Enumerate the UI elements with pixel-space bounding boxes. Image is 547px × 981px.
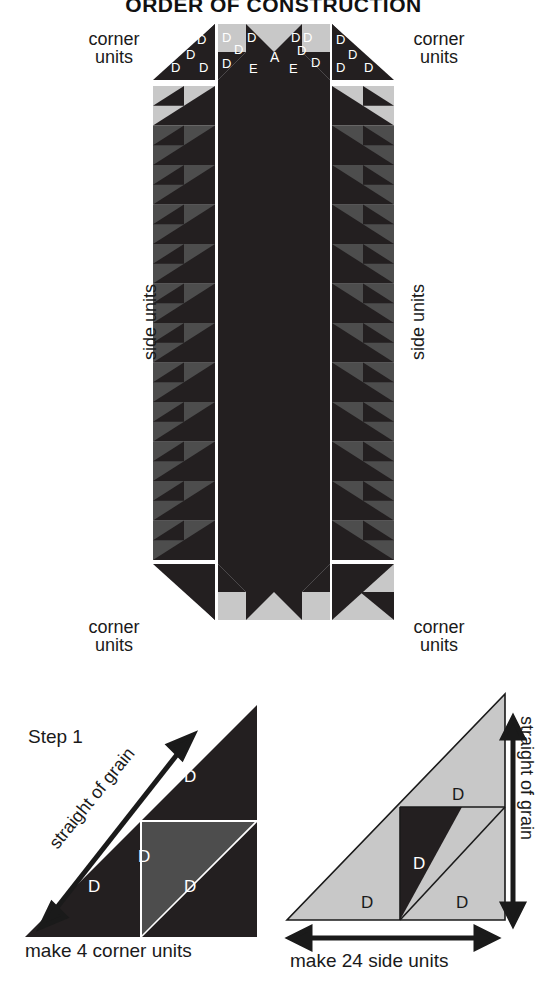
side-unit-piece-label-d: D xyxy=(413,855,425,872)
side-unit-piece-label-d: D xyxy=(361,894,373,911)
corner-unit-top-left xyxy=(153,24,215,80)
side-unit-illustration xyxy=(287,694,505,920)
side-unit-grain-label: straight of grain xyxy=(516,716,537,840)
side-units-column-right xyxy=(332,86,394,560)
corner-unit-bottom-right xyxy=(332,564,394,620)
side-unit-width-arrow xyxy=(290,926,496,950)
corner-units-label-bottom-right: corner units xyxy=(400,618,478,655)
step1-piece-label-d: D xyxy=(138,848,150,865)
corner-units-label-top-right: corner units xyxy=(400,30,478,67)
step1-piece-label-d: D xyxy=(184,878,196,895)
corner-unit-bottom-left xyxy=(153,564,215,620)
side-units-column-left xyxy=(153,86,215,560)
corner-unit-top-right xyxy=(332,24,394,80)
side-unit-piece-label-d: D xyxy=(452,786,464,803)
step1-piece-label-d: D xyxy=(184,768,196,785)
side-unit-caption: make 24 side units xyxy=(290,950,448,972)
step1-caption: make 4 corner units xyxy=(25,940,192,962)
center-panel xyxy=(218,24,330,620)
page-title: ORDER OF CONSTRUCTION xyxy=(0,0,547,17)
side-units-label-right: side units xyxy=(408,284,429,360)
corner-units-label-bottom-left: corner units xyxy=(78,618,150,655)
corner-units-label-top-left: corner units xyxy=(78,30,150,67)
side-units-label-left: side units xyxy=(140,284,161,360)
side-unit-piece-label-d: D xyxy=(456,894,468,911)
step1-piece-label-d: D xyxy=(88,878,100,895)
